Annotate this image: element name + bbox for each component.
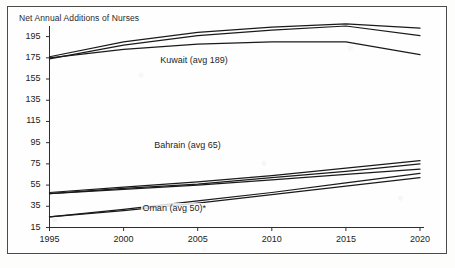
y-tick-label: 75 <box>17 158 41 168</box>
y-tick-label: 15 <box>17 222 41 232</box>
y-tick-label: 115 <box>17 115 41 125</box>
y-tick-marks <box>46 37 50 228</box>
x-tick-label: 2000 <box>106 234 142 244</box>
y-tick-label: 95 <box>17 137 41 147</box>
y-tick-label: 175 <box>17 52 41 62</box>
x-tick-label: 2020 <box>402 234 438 244</box>
series-annotation: Bahrain (avg 65) <box>153 140 222 150</box>
y-tick-label: 135 <box>17 94 41 104</box>
series-line-bahrain <box>50 161 421 193</box>
series-line-oman <box>50 173 421 216</box>
y-tick-label: 55 <box>17 179 41 189</box>
x-tick-marks <box>50 228 421 232</box>
x-tick-label: 1995 <box>32 234 68 244</box>
plot-area <box>0 0 455 268</box>
x-tick-label: 2015 <box>328 234 364 244</box>
series-line-kuwait <box>50 42 421 58</box>
x-tick-label: 2005 <box>180 234 216 244</box>
y-tick-label: 35 <box>17 200 41 210</box>
y-tick-label: 155 <box>17 73 41 83</box>
chart-screenshot: Net Annual Additions of Nurses 153555759… <box>0 0 455 268</box>
y-tick-label: 195 <box>17 31 41 41</box>
series-annotation: Kuwait (avg 189) <box>159 55 229 65</box>
series-lines <box>50 24 421 217</box>
x-tick-label: 2010 <box>254 234 290 244</box>
series-annotation: Oman (avg 50)* <box>141 203 207 213</box>
